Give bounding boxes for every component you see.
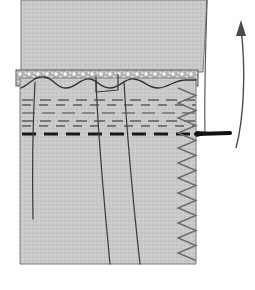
diagram-canvas	[0, 0, 255, 290]
waistband-upper-panel	[21, 0, 207, 72]
curved-up-fold-arrow	[236, 28, 244, 148]
sewing-diagram-figure	[0, 0, 255, 290]
skirt-lower-panel	[20, 78, 196, 264]
curved-up-fold-arrow-head	[236, 20, 246, 36]
